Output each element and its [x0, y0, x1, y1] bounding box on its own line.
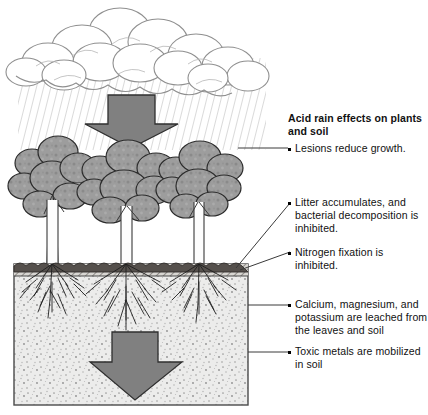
bullet-icon: [288, 148, 291, 151]
bullet-icon: [288, 252, 291, 255]
annotation-toxic-metals: Toxic metals are mobilized in soil: [288, 345, 428, 371]
figure-acid-rain-effects: Acid rain effects on plants and soil Les…: [0, 0, 428, 415]
annotation-litter: Litter accumulates, and bacterial decomp…: [288, 196, 426, 236]
leader-litter: [236, 203, 290, 268]
storm-cloud: [6, 8, 269, 92]
annotation-lesions: Lesions reduce growth.: [288, 142, 424, 155]
annotations-heading: Acid rain effects on plants and soil: [288, 112, 424, 138]
tree-right: [156, 141, 243, 264]
tree-center: [77, 140, 175, 264]
bullet-icon: [288, 202, 291, 205]
bullet-icon: [288, 304, 291, 307]
bullet-icon: [288, 351, 291, 354]
annotation-calcium: Calcium, magnesium, and potassium are le…: [288, 298, 428, 338]
annotation-nitrogen: Nitrogen fixation is inhibited.: [288, 246, 424, 272]
